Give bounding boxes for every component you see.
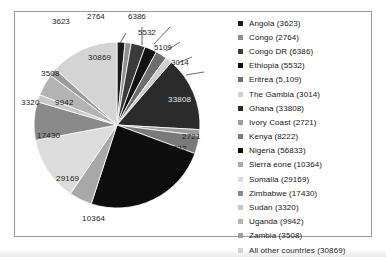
legend-swatch-icon bbox=[238, 148, 243, 153]
pie-leader-label: 3623 bbox=[52, 17, 70, 26]
legend-label: Congo (2764) bbox=[249, 33, 299, 42]
leader-line-congo-dr bbox=[154, 27, 170, 44]
legend-item[interactable]: Nigeria (56833) bbox=[238, 144, 370, 158]
legend-item[interactable]: Sudan (3320) bbox=[238, 200, 370, 214]
legend-label: Ivory Coast (2721) bbox=[249, 118, 317, 127]
pie-leader-label: 2764 bbox=[87, 12, 105, 21]
legend-item[interactable]: Congo (2764) bbox=[238, 30, 370, 44]
legend-item[interactable]: Zimbabwe (17430) bbox=[238, 186, 370, 200]
legend-label: Ethiopia (5532) bbox=[249, 61, 305, 70]
legend-item[interactable]: Somalia (29169) bbox=[238, 172, 370, 186]
legend-swatch-icon bbox=[238, 92, 243, 97]
pie-leader-label: 5532 bbox=[138, 28, 156, 37]
legend-item[interactable]: Congo DR (6386) bbox=[238, 44, 370, 58]
legend-label: The Gambia (3014) bbox=[249, 90, 320, 99]
legend-item[interactable]: The Gambia (3014) bbox=[238, 87, 370, 101]
pie-leader-label: 6386 bbox=[128, 12, 146, 21]
legend-item[interactable]: Angola (3623) bbox=[238, 16, 370, 30]
legend-label: Somalia (29169) bbox=[249, 175, 309, 184]
legend-label: Eritrea (5,109) bbox=[249, 75, 302, 84]
legend-item[interactable]: Kenya (8222) bbox=[238, 130, 370, 144]
legend-swatch-icon bbox=[238, 233, 243, 238]
legend-item[interactable]: Uganda (9942) bbox=[238, 215, 370, 229]
pie-slice-label: 3508 bbox=[41, 69, 60, 78]
legend-item[interactable]: Sierra eone (10364) bbox=[238, 158, 370, 172]
legend-item[interactable]: Ivory Coast (2721) bbox=[238, 115, 370, 129]
legend-swatch-icon bbox=[238, 248, 243, 253]
pie-slice-label: 17430 bbox=[37, 131, 60, 140]
legend-swatch-icon bbox=[238, 106, 243, 111]
legend-swatch-icon bbox=[238, 35, 243, 40]
legend-label: Ghana (33808) bbox=[249, 104, 304, 113]
legend-swatch-icon bbox=[238, 205, 243, 210]
legend-item[interactable]: All other countries (30869) bbox=[238, 243, 370, 257]
pie-svg bbox=[14, 11, 214, 237]
legend-label: Sudan (3320) bbox=[249, 203, 299, 212]
legend-item[interactable]: Eritrea (5,109) bbox=[238, 73, 370, 87]
legend-swatch-icon bbox=[238, 49, 243, 54]
chart-legend: Angola (3623)Congo (2764)Congo DR (6386)… bbox=[238, 16, 370, 257]
legend-swatch-icon bbox=[238, 162, 243, 167]
legend-swatch-icon bbox=[238, 63, 243, 68]
legend-label: Uganda (9942) bbox=[249, 217, 304, 226]
legend-swatch-icon bbox=[238, 21, 243, 26]
legend-label: Angola (3623) bbox=[249, 19, 301, 28]
pie-slice-label: 2721 bbox=[182, 132, 201, 141]
legend-item[interactable]: Zambia (3508) bbox=[238, 229, 370, 243]
pie-leader-label: 3014 bbox=[171, 58, 189, 67]
legend-label: Kenya (8222) bbox=[249, 132, 298, 141]
legend-item[interactable]: Ethiopia (5532) bbox=[238, 59, 370, 73]
pie-slice-label: 8222 bbox=[168, 144, 187, 153]
pie-chart-figure: 362327646386553251093014 338082721822230… bbox=[0, 0, 386, 257]
legend-swatch-icon bbox=[238, 77, 243, 82]
legend-item[interactable]: Ghana (33808) bbox=[238, 101, 370, 115]
legend-label: Nigeria (56833) bbox=[249, 146, 306, 155]
legend-swatch-icon bbox=[238, 134, 243, 139]
legend-swatch-icon bbox=[238, 219, 243, 224]
legend-swatch-icon bbox=[238, 120, 243, 125]
legend-label: Congo DR (6386) bbox=[249, 47, 313, 56]
pie-slice-label: 10364 bbox=[82, 214, 105, 223]
legend-swatch-icon bbox=[238, 177, 243, 182]
pie-slice-label: 3320 bbox=[21, 98, 40, 107]
pie-slice-label: 29169 bbox=[56, 174, 79, 183]
pie-slice-label: 33808 bbox=[168, 95, 191, 104]
legend-label: All other countries (30869) bbox=[249, 246, 346, 255]
pie-slice-label: 9942 bbox=[55, 98, 74, 107]
legend-label: Zimbabwe (17430) bbox=[249, 189, 317, 198]
pie-slice-label: 30869 bbox=[88, 53, 111, 62]
pie-leader-label: 5109 bbox=[154, 43, 172, 52]
legend-swatch-icon bbox=[238, 191, 243, 196]
leader-line-gambia bbox=[186, 72, 204, 75]
pie-plot-area: 362327646386553251093014 338082721822230… bbox=[14, 11, 214, 237]
legend-label: Sierra eone (10364) bbox=[249, 160, 322, 169]
legend-label: Zambia (3508) bbox=[249, 231, 302, 240]
